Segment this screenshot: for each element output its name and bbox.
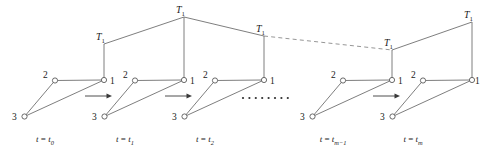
unit-t2-label-bus1: 1 bbox=[270, 76, 275, 86]
unit-t2-load-label: T1 bbox=[256, 23, 265, 36]
unit-tm-1-bus-3 bbox=[310, 114, 315, 119]
ridge-t1-t2 bbox=[184, 17, 264, 36]
unit-t0-label-bus2: 2 bbox=[43, 70, 48, 80]
ellipsis-dot bbox=[242, 97, 244, 99]
unit-tm-1 bbox=[310, 50, 395, 119]
unit-tm-1-bus-2 bbox=[340, 78, 345, 83]
ridge-t0-t1 bbox=[104, 17, 184, 44]
unit-tm-label-bus3: 3 bbox=[380, 112, 385, 122]
unit-t0-arrow-head bbox=[107, 94, 113, 99]
unit-t1-bus-2 bbox=[132, 78, 137, 83]
unit-t0-bus-1 bbox=[101, 77, 106, 82]
unit-tm-load-label: T1 bbox=[464, 9, 473, 22]
unit-t1-bus-3 bbox=[102, 114, 107, 119]
unit-t1-transition-arrow bbox=[165, 94, 192, 99]
unit-t0-bus-3 bbox=[22, 114, 27, 119]
unit-t2-time-label: t = t2 bbox=[196, 134, 215, 146]
unit-t0-branch-3-2 bbox=[25, 81, 56, 117]
unit-t0-branch-2-1 bbox=[55, 80, 104, 81]
unit-t2-bus-3 bbox=[182, 114, 187, 119]
ellipsis-dot bbox=[261, 97, 263, 99]
ridge-t2-tm-1 bbox=[264, 36, 392, 50]
ellipsis-dot bbox=[268, 97, 270, 99]
unit-t1-branch-2-1 bbox=[135, 80, 184, 81]
unit-t0-transition-arrow bbox=[85, 94, 112, 99]
ridge-tm-1-tm bbox=[392, 22, 472, 50]
load-ridge-layer bbox=[104, 17, 472, 50]
unit-tm-time-label: t = tm bbox=[403, 134, 423, 146]
unit-t1-arrow-head bbox=[187, 94, 193, 99]
unit-tm-1-label-bus2: 2 bbox=[331, 70, 336, 80]
unit-tm-branch-3-1 bbox=[393, 80, 473, 117]
ellipsis-dot bbox=[274, 97, 276, 99]
unit-tm-1-load-label: T1 bbox=[384, 37, 393, 50]
unit-t1-label-bus2: 2 bbox=[123, 70, 128, 80]
ellipsis-dot bbox=[280, 97, 282, 99]
unit-tm-bus-2 bbox=[420, 78, 425, 83]
network-time-sequence-diagram: 123T1t = t0123T1t = t1123T1t = t2123T1t … bbox=[0, 0, 482, 154]
ellipsis-dots bbox=[242, 97, 289, 99]
unit-tm-bus-1 bbox=[469, 77, 474, 82]
unit-tm-1-branch-3-2 bbox=[313, 81, 344, 117]
unit-tm-label-bus2: 2 bbox=[411, 70, 416, 80]
unit-tm-bus-3 bbox=[390, 114, 395, 119]
unit-tm-1-branch-2-1 bbox=[343, 80, 392, 81]
unit-t1-label-bus3: 3 bbox=[92, 112, 97, 122]
unit-t0-label-bus3: 3 bbox=[12, 112, 17, 122]
unit-tm-1-label-bus1: 1 bbox=[398, 76, 403, 86]
unit-t0-bus-2 bbox=[52, 78, 57, 83]
unit-t1-label-bus1: 1 bbox=[190, 76, 195, 86]
unit-t0 bbox=[22, 44, 107, 119]
unit-tm bbox=[390, 22, 475, 119]
unit-t1-bus-1 bbox=[181, 77, 186, 82]
unit-t2-label-bus2: 2 bbox=[203, 70, 208, 80]
unit-tm-label-bus1: 1 bbox=[475, 76, 480, 86]
figure-container: 123T1t = t0123T1t = t1123T1t = t2123T1t … bbox=[0, 0, 482, 154]
ellipsis-dot bbox=[248, 97, 250, 99]
unit-t1 bbox=[102, 17, 187, 119]
unit-tm-1-time-label: t = tm−1 bbox=[320, 134, 347, 146]
unit-t2-bus-2 bbox=[212, 78, 217, 83]
unit-t2-branch-3-1 bbox=[185, 80, 265, 117]
unit-tm-1-bus-1 bbox=[389, 77, 394, 82]
unit-t0-time-label: t = t0 bbox=[36, 134, 55, 146]
unit-t2-branch-2-1 bbox=[215, 80, 264, 81]
text-labels-layer: 123T1t = t0123T1t = t1123T1t = t2123T1t … bbox=[12, 4, 480, 146]
unit-tm-1-arrow-head bbox=[395, 94, 401, 99]
unit-tm-branch-2-1 bbox=[423, 80, 472, 81]
ellipsis-dot bbox=[255, 97, 257, 99]
unit-t2-label-bus3: 3 bbox=[172, 112, 177, 122]
unit-t1-time-label: t = t1 bbox=[116, 134, 134, 146]
ellipsis-dot bbox=[287, 97, 289, 99]
unit-t2-bus-1 bbox=[261, 77, 266, 82]
unit-tm-1-transition-arrow bbox=[373, 94, 400, 99]
unit-t0-label-bus1: 1 bbox=[110, 76, 115, 86]
unit-t0-load-label: T1 bbox=[96, 31, 105, 44]
unit-t1-load-label: T1 bbox=[176, 4, 185, 17]
unit-tm-1-label-bus3: 3 bbox=[300, 112, 305, 122]
